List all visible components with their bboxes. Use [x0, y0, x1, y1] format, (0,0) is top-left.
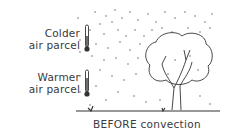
- grass-tuft: [88, 106, 93, 111]
- air-particles: [77, 9, 212, 105]
- thermometer-icon: [84, 25, 89, 52]
- label-line: Colder: [14, 27, 80, 39]
- label-line: Warmer: [14, 71, 80, 83]
- label-line: air parcel: [14, 39, 80, 51]
- thermometer-icon: [84, 70, 89, 97]
- caption: BEFORE convection: [93, 118, 201, 130]
- label-line: air parcel: [14, 83, 80, 95]
- colder-air-parcel-label: Colder air parcel: [14, 27, 80, 51]
- tree-icon: [146, 33, 213, 110]
- diagram-canvas: [0, 0, 249, 135]
- warmer-air-parcel-label: Warmer air parcel: [14, 71, 80, 95]
